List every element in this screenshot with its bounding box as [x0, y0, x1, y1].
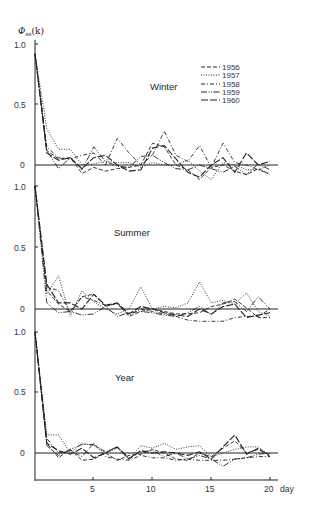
x-tick-label: 5: [90, 484, 95, 494]
chart-canvas: Φss(k) Winter 1.0 0.5 0 1956 1957 1958 1…: [0, 0, 309, 514]
panel-year: Year 1.0 0.5 0: [14, 327, 270, 466]
y-tick-label: 1.0: [14, 327, 26, 337]
panel-summer: Summer 1.0 0.5 0: [14, 182, 270, 321]
y-axis-label: Φss(k): [18, 26, 44, 37]
panel-title-summer: Summer: [114, 227, 150, 238]
series-line-1960: [35, 186, 270, 318]
series-line-1956: [35, 332, 270, 460]
y-tick-label: 0: [20, 160, 25, 170]
y-tick-label: 0: [20, 448, 25, 458]
panel-title-winter: Winter: [150, 81, 177, 92]
series-group-year: [35, 332, 270, 466]
y-tick-label: 1.0: [14, 182, 26, 192]
series-line-1959: [35, 332, 270, 466]
series-line-1956: [35, 186, 270, 318]
series-line-1960: [35, 332, 270, 459]
y-tick-label: 0: [20, 304, 25, 314]
x-tick-label: 15: [205, 484, 215, 494]
autocorrelation-figure: Φss(k) Winter 1.0 0.5 0 1956 1957 1958 1…: [0, 0, 309, 514]
x-tick-label: 20: [264, 484, 274, 494]
series-line-1958: [35, 186, 270, 321]
series-line-1959: [35, 186, 270, 316]
y-tick-label: 0.5: [14, 387, 26, 397]
legend: 1956 1957 1958 1959 1960: [201, 63, 240, 105]
panel-winter: Winter 1.0 0.5 0: [14, 40, 270, 180]
series-line-1957: [35, 186, 270, 316]
series-group-summer: [35, 186, 270, 321]
legend-label-1960: 1960: [222, 96, 240, 105]
y-tick-label: 0.5: [14, 243, 26, 253]
legend-label-1957: 1957: [222, 71, 240, 80]
series-line-1958: [35, 332, 270, 460]
x-axis-label: day: [280, 484, 294, 494]
panel-title-year: Year: [115, 372, 134, 383]
series-line-1957: [35, 332, 270, 459]
x-tick-label: 10: [146, 484, 156, 494]
y-tick-label: 1.0: [14, 40, 26, 50]
y-tick-label: 0.5: [14, 100, 26, 110]
